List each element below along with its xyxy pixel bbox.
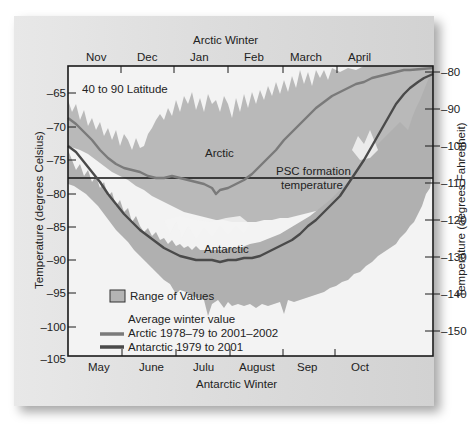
left-tick-label: –85 (47, 221, 66, 233)
chart-svg: Range of Values Average winter value Arc… (0, 0, 474, 432)
bottom-axis-title: Antarctic Winter (196, 378, 277, 390)
top-month-nov: Nov (86, 51, 107, 63)
left-tick-label: –100 (40, 321, 66, 333)
top-month-dec: Dec (137, 51, 158, 63)
right-axis-title: Temperature (degrees Fahrenheit) (455, 122, 467, 297)
left-tick-label: –90 (47, 254, 66, 266)
psc-label-line1: PSC formation (276, 165, 351, 177)
bottom-month-labels: May June Julu August Sep Oct (88, 361, 370, 373)
top-month-feb: Feb (244, 51, 264, 63)
left-tick-label: –70 (47, 121, 66, 133)
bottom-month-june: June (139, 361, 164, 373)
legend-range-label: Range of Values (130, 290, 214, 302)
top-month-march: March (290, 51, 322, 63)
top-month-jan: Jan (190, 51, 209, 63)
bottom-month-may: May (88, 361, 110, 373)
right-tick-label: –80 (441, 66, 460, 78)
psc-label-line2: temperature (281, 179, 343, 191)
left-tick-label: –80 (47, 188, 66, 200)
legend-antarctic-label: Antarctic 1979 to 2001 (128, 341, 243, 353)
top-month-april: April (348, 51, 371, 63)
bottom-month-sep: Sep (297, 361, 317, 373)
antarctic-label: Antarctic (204, 243, 249, 255)
legend-range-swatch (110, 290, 125, 302)
top-month-labels: Nov Dec Jan Feb March April (86, 51, 371, 63)
region-label: 40 to 90 Latitude (82, 83, 168, 95)
right-tick-label: –90 (441, 103, 460, 115)
right-tick-label: –150 (441, 325, 467, 337)
arctic-label: Arctic (205, 147, 234, 159)
left-axis-title: Temperature (degrees Celsius) (33, 131, 45, 289)
left-tick-label: –105 (40, 353, 66, 365)
left-tick-label: –65 (47, 87, 66, 99)
left-tick-label: –75 (47, 154, 66, 166)
legend-arctic-label: Arctic 1978–79 to 2001–2002 (128, 327, 278, 339)
left-tick-label: –95 (47, 287, 66, 299)
top-axis-title: Arctic Winter (193, 34, 258, 46)
bottom-month-oct: Oct (351, 361, 370, 373)
legend-avg-heading: Average winter value (128, 313, 235, 325)
bottom-month-julu: Julu (193, 361, 214, 373)
bottom-month-august: August (239, 361, 276, 373)
